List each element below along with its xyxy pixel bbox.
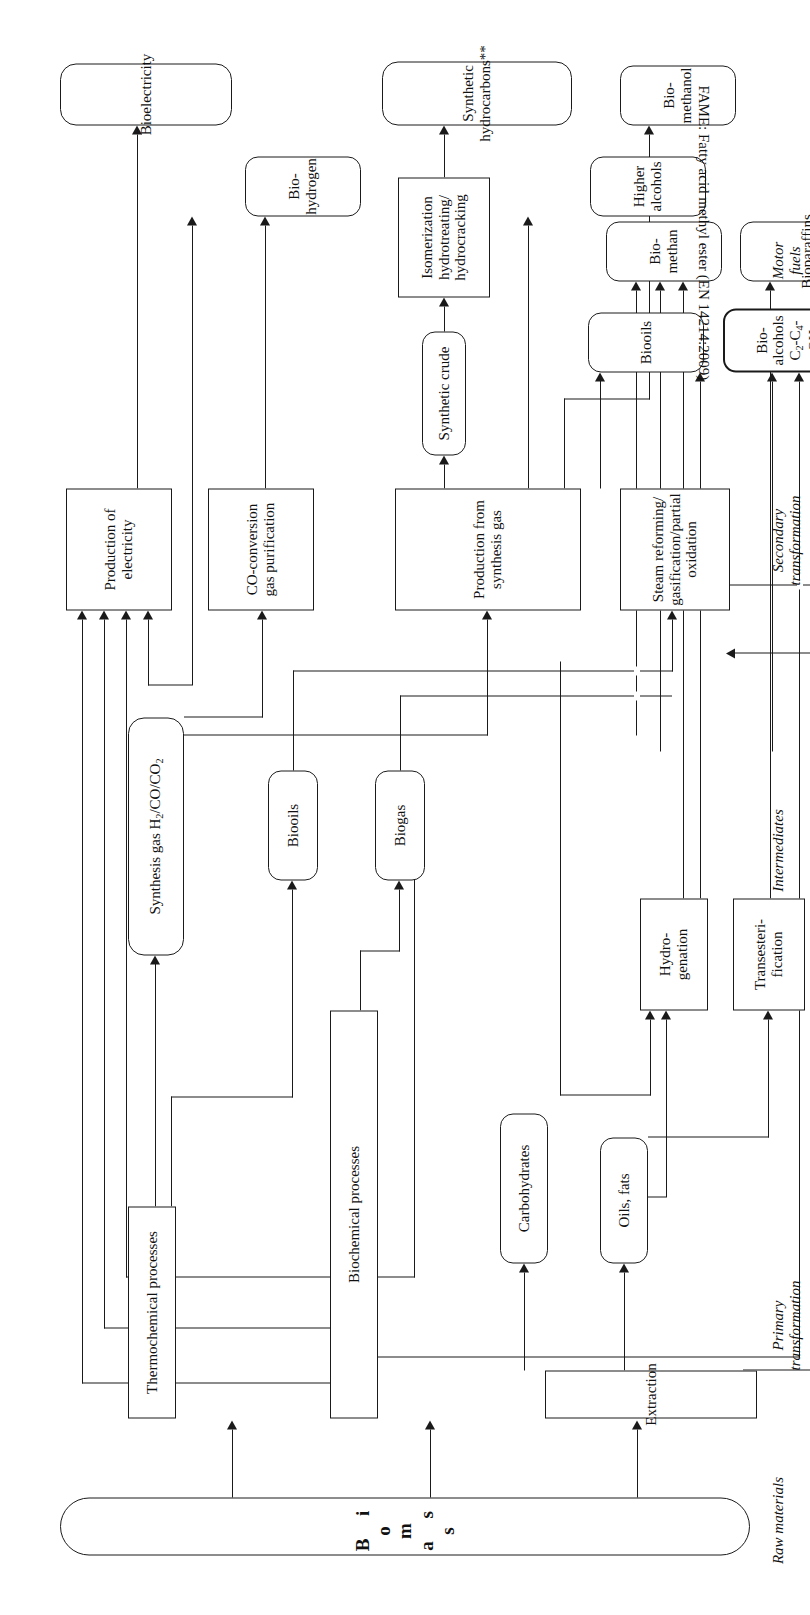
edge-in-elec-3h2 — [414, 879, 415, 1277]
arrowhead — [523, 216, 533, 225]
node-isomerization-label: Isomerizationhydrotreating/hydrocracking — [419, 194, 469, 281]
arrowhead — [77, 610, 87, 619]
node-biomass: B i o m a s s — [60, 1497, 750, 1555]
node-production-from-syngas-label: Production fromsynthesis gas — [471, 500, 505, 599]
arrowhead — [655, 281, 665, 290]
row-label-motor-fuels: Motorfuels — [770, 205, 805, 315]
arrowhead — [439, 297, 449, 306]
arrowhead — [667, 610, 677, 619]
edge-biogas-steam-a — [400, 695, 401, 770]
edge-syncrude-isom — [444, 306, 445, 331]
arrowhead — [121, 610, 131, 619]
edge-extraction-carbs — [524, 1272, 525, 1370]
node-biomethan-label: Bio-methan — [647, 229, 681, 273]
node-higher-alcohols-label: Higheralcohols — [631, 161, 665, 211]
arrowhead — [143, 610, 153, 619]
arrowhead — [519, 1263, 529, 1272]
edge-carbs-hydro-top — [560, 661, 561, 1095]
arrowhead — [726, 648, 735, 658]
arrowhead — [439, 455, 449, 464]
edge-oils-trans — [768, 1019, 769, 1137]
arrowhead — [227, 1420, 237, 1429]
arrowhead — [99, 610, 109, 619]
arrowhead — [260, 216, 270, 225]
edge-extraction-oils — [624, 1272, 625, 1370]
arrowhead — [678, 281, 688, 290]
node-co-conversion-gas-purification: CO-conversiongas purification — [208, 488, 314, 610]
arrowhead — [425, 1420, 435, 1429]
node-higher-alcohols: Higheralcohols — [590, 156, 706, 216]
edge-biochem-biogas-b — [360, 950, 400, 951]
edge-in-elec-1v — [82, 1382, 330, 1383]
node-biomethanol-label: Bio-methanol — [661, 67, 695, 123]
edge-biogas-steam-b — [400, 695, 672, 696]
wire-jump — [634, 691, 640, 700]
node-transesterification: Transesteri-fication — [733, 898, 805, 1010]
edge-in-elec-4 — [148, 619, 149, 685]
node-transesterification-label: Transesteri-fication — [752, 918, 786, 989]
node-biooils-output: Biooils — [588, 312, 704, 372]
edge-biomass-biochemical — [430, 1429, 431, 1497]
edge-carbs-hydro-h — [650, 1019, 651, 1095]
edge-syngas-prodsg-v — [184, 734, 488, 735]
edge-thermo-syngas — [155, 963, 156, 1206]
arrowhead — [595, 372, 605, 381]
arrowhead — [619, 1263, 629, 1272]
arrowhead — [150, 955, 160, 964]
arrowhead — [187, 216, 197, 225]
arrowhead — [645, 1010, 655, 1019]
node-steam-reforming-label: Steam reforming/gasification/partialoxid… — [650, 493, 700, 605]
row-label-raw-materials: Raw materials — [770, 1455, 787, 1585]
edge-thermo-biooils-b — [171, 1096, 293, 1097]
node-biomethanol: Bio-methanol — [620, 65, 736, 125]
wire-jump — [634, 666, 640, 675]
edge-in-elec-3 — [126, 619, 127, 1277]
edge-biooils-steam-b — [293, 670, 673, 671]
edge-isom-synthhc — [444, 134, 445, 177]
arrowhead — [661, 1010, 671, 1019]
edge-prodsg-biomethanol-a — [564, 398, 565, 488]
node-biohydrogen-label: Bio-hydrogen — [286, 158, 320, 215]
arrowhead — [644, 125, 654, 134]
node-steam-reforming: Steam reforming/gasification/partialoxid… — [620, 488, 730, 610]
edge-biooils-steam-c — [672, 619, 673, 671]
node-production-of-electricity: Production ofelectricity — [66, 488, 172, 610]
node-synthesis-gas-label: Synthesis gas H2/CO/CO2 — [147, 758, 165, 914]
row-label-secondary-transformation: Secondarytransformation — [770, 465, 805, 615]
node-synthetic-crude: Synthetic crude — [422, 331, 466, 455]
figure-footnote: FAME: Fatty acid methyl ester (EN 14214:… — [695, 85, 712, 380]
node-isomerization: Isomerizationhydrotreating/hydrocracking — [398, 177, 490, 297]
edge-oils-trans-v — [648, 1136, 769, 1137]
edge-in-elec-2 — [104, 619, 105, 1328]
node-hydrogenation-label: Hydro-genation — [657, 928, 691, 980]
edge-thermo-biooils-a — [171, 1096, 172, 1206]
edge-hydro-biogasoil — [700, 381, 701, 898]
edge-second-biohydrogen — [192, 225, 193, 685]
node-oils-fats: Oils, fats — [600, 1137, 648, 1263]
node-bioalcohols: Bio-alcoholsC2-C4-OH — [723, 308, 810, 372]
row-label-primary-transformation: Primarytransformation — [770, 1260, 805, 1390]
edge-biooils-steam-a — [293, 670, 294, 770]
node-thermochemical-processes: Thermochemical processes — [128, 1206, 176, 1418]
node-biogas-intermediate: Biogas — [375, 770, 425, 880]
edge-biomass-thermochemical — [232, 1429, 233, 1497]
edge-biooils-out-a — [600, 380, 601, 488]
edge-syngas-coconv-v — [184, 716, 263, 717]
arrowhead — [763, 1010, 773, 1019]
edge-in-elec-1 — [82, 619, 83, 1383]
row-label-intermediates: Intermediates — [770, 785, 787, 915]
edge-biochem-biogas-a — [360, 950, 361, 1010]
edge-carbs-hydro-v — [560, 1094, 651, 1095]
edge-biochem-bioalc-a — [378, 1356, 800, 1357]
arrowhead — [439, 125, 449, 134]
node-bioalcohols-label: Bio-alcoholsC2-C4-OH — [754, 312, 810, 368]
node-production-from-synthesis-gas: Production fromsynthesis gas — [395, 488, 581, 610]
node-bioelectricity: Bioelectricity — [60, 63, 232, 125]
arrowhead — [767, 372, 777, 381]
node-synthetic-hydrocarbons: Synthetichydrocarbons** — [382, 61, 572, 125]
arrowhead — [631, 281, 641, 290]
edge-syngas-prodsg-h — [487, 619, 488, 735]
edge-syngas-coconv — [262, 619, 263, 717]
node-co-conversion-label: CO-conversiongas purification — [244, 502, 278, 596]
edge-biomass-extraction — [637, 1429, 638, 1497]
